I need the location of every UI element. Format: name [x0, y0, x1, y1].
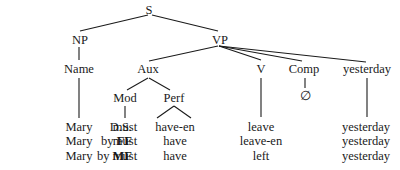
node-aux: Aux: [137, 62, 159, 76]
node-empty: ∅: [300, 89, 311, 103]
node-np: NP: [72, 33, 88, 47]
cell-ff-mod: must: [113, 134, 137, 148]
cell-mf-mod: must: [113, 149, 137, 163]
node-name: Name: [64, 62, 94, 76]
cell-ff-yesterday: yesterday: [342, 134, 390, 148]
cell-mf-name: Mary: [65, 149, 92, 163]
cell-ds-v: leave: [248, 120, 274, 134]
node-s: S: [146, 3, 153, 17]
cell-mf-yesterday: yesterday: [342, 149, 390, 163]
cell-ff-perf: have: [163, 134, 187, 148]
node-v: V: [256, 62, 265, 76]
cell-ff-v: leave-en: [240, 134, 282, 148]
cell-ds-perf: have-en: [155, 120, 195, 134]
node-vp: VP: [212, 33, 228, 47]
cell-mf-v: left: [253, 149, 270, 163]
cell-mf-perf: have: [163, 149, 187, 163]
cell-ff-name: Mary: [65, 134, 92, 148]
cell-ds-yesterday: yesterday: [342, 120, 390, 134]
node-mod: Mod: [113, 91, 137, 105]
cell-ds-name: Mary: [65, 120, 92, 134]
node-perf: Perf: [164, 91, 185, 105]
tree-edges: [0, 0, 400, 170]
node-yesterday: yesterday: [343, 62, 391, 76]
cell-ds-mod: must: [113, 120, 137, 134]
node-comp: Comp: [289, 62, 320, 76]
